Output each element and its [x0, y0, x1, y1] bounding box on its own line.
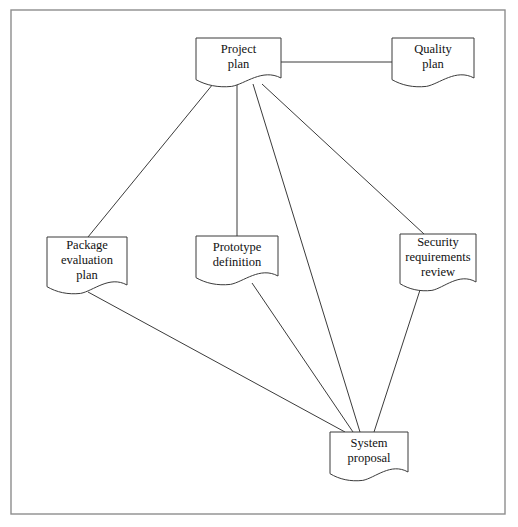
node-label-security-requirements-review: requirements	[405, 250, 470, 264]
node-label-prototype-definition: Prototype	[213, 240, 262, 254]
node-security-requirements-review[interactable]: Securityrequirementsreview	[400, 234, 476, 291]
node-label-prototype-definition: definition	[213, 255, 262, 269]
node-package-evaluation-plan[interactable]: Packageevaluationplan	[47, 237, 127, 294]
node-label-system-proposal: proposal	[347, 451, 391, 465]
node-prototype-definition[interactable]: Prototypedefinition	[196, 236, 278, 285]
document-dependency-diagram: ProjectplanQualityplanPackageevaluationp…	[0, 0, 518, 527]
node-quality-plan[interactable]: Qualityplan	[392, 38, 474, 87]
edge-security-requirements-review--system-proposal	[374, 290, 420, 432]
node-label-project-plan: plan	[228, 57, 250, 71]
node-label-security-requirements-review: Security	[417, 235, 459, 249]
node-label-system-proposal: System	[351, 436, 388, 450]
node-label-quality-plan: Quality	[414, 42, 452, 56]
edge-prototype-definition--system-proposal	[252, 283, 353, 432]
node-project-plan[interactable]: Projectplan	[196, 38, 281, 87]
diagram-canvas: ProjectplanQualityplanPackageevaluationp…	[0, 0, 518, 527]
node-system-proposal[interactable]: Systemproposal	[330, 432, 408, 481]
node-label-package-evaluation-plan: evaluation	[61, 253, 114, 267]
node-label-project-plan: Project	[221, 42, 257, 56]
node-label-package-evaluation-plan: Package	[66, 238, 108, 252]
node-label-quality-plan: plan	[422, 57, 444, 71]
edge-project-plan--package-evaluation-plan	[88, 84, 213, 237]
node-layer: ProjectplanQualityplanPackageevaluationp…	[47, 38, 476, 481]
node-label-package-evaluation-plan: plan	[76, 268, 98, 282]
edge-package-evaluation-plan--system-proposal	[88, 292, 345, 432]
edge-project-plan--security-requirements-review	[262, 84, 424, 234]
node-label-security-requirements-review: review	[421, 265, 455, 279]
